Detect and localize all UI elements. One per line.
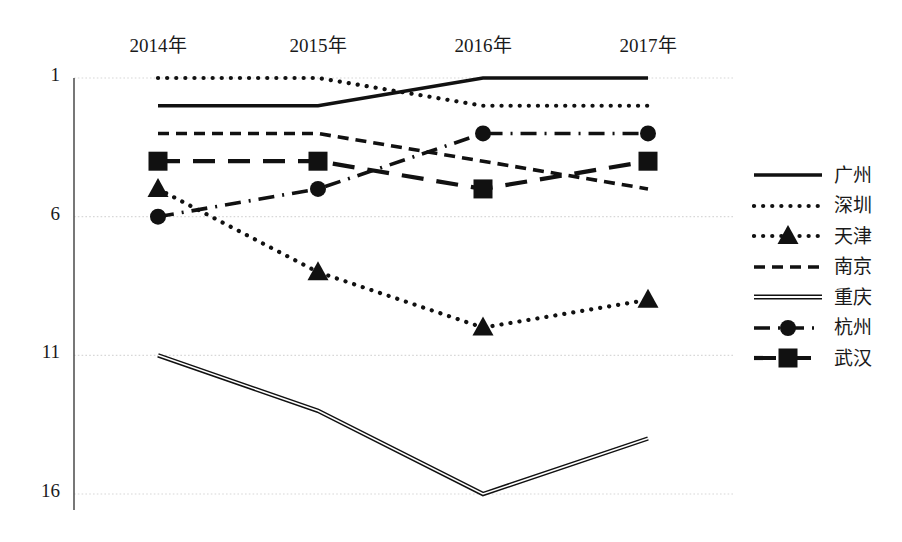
y-axis-label-3: 16 xyxy=(8,480,60,502)
y-axis-label-1: 6 xyxy=(8,203,60,225)
series-2 xyxy=(148,178,659,336)
legend-swatch-icon xyxy=(752,225,824,247)
data-point-circle xyxy=(780,320,796,336)
legend-swatch-icon xyxy=(752,195,824,217)
legend-label: 天津 xyxy=(834,227,872,246)
x-axis-label-2: 2016年 xyxy=(423,30,543,57)
legend-label: 广州 xyxy=(834,166,872,185)
legend-label: 深圳 xyxy=(834,196,872,215)
legend-item-3[interactable]: 南京 xyxy=(752,252,902,283)
legend-item-1[interactable]: 深圳 xyxy=(752,191,902,222)
legend-swatch-icon xyxy=(752,164,824,186)
data-point-circle xyxy=(310,181,326,197)
data-point-square xyxy=(309,152,328,171)
rank-line-chart: 2014年2015年2016年2017年 161116 广州深圳天津南京重庆杭州… xyxy=(0,0,902,542)
data-point-square xyxy=(149,152,168,171)
legend-swatch-icon xyxy=(752,317,824,339)
data-point-square xyxy=(474,179,493,198)
series-1 xyxy=(158,78,648,106)
data-point-triangle xyxy=(148,178,169,197)
x-axis-label-1: 2015年 xyxy=(258,30,378,57)
legend-label: 杭州 xyxy=(834,318,872,337)
legend-swatch-icon xyxy=(752,347,824,369)
legend-swatch-icon xyxy=(752,286,824,308)
legend-label: 重庆 xyxy=(834,288,872,307)
legend-item-5[interactable]: 杭州 xyxy=(752,313,902,344)
data-point-square xyxy=(639,152,658,171)
data-point-circle xyxy=(475,125,491,141)
legend-swatch-icon xyxy=(752,256,824,278)
y-axis-label-2: 11 xyxy=(8,341,60,363)
data-point-circle xyxy=(640,125,656,141)
legend-item-0[interactable]: 广州 xyxy=(752,160,902,191)
data-point-circle xyxy=(150,209,166,225)
x-axis-label-0: 2014年 xyxy=(98,30,218,57)
legend-item-2[interactable]: 天津 xyxy=(752,221,902,252)
legend-item-6[interactable]: 武汉 xyxy=(752,343,902,374)
x-axis-label-3: 2017年 xyxy=(588,30,708,57)
y-axis-label-0: 1 xyxy=(8,64,60,86)
legend-label: 武汉 xyxy=(834,349,872,368)
data-point-square xyxy=(779,349,798,368)
legend-item-4[interactable]: 重庆 xyxy=(752,282,902,313)
chart-legend: 广州深圳天津南京重庆杭州武汉 xyxy=(752,160,902,374)
legend-label: 南京 xyxy=(834,257,872,276)
data-point-triangle xyxy=(638,289,659,308)
series-4 xyxy=(158,355,648,494)
